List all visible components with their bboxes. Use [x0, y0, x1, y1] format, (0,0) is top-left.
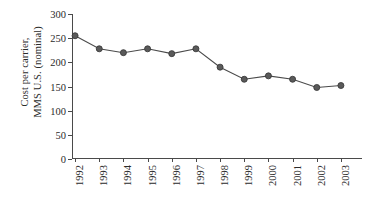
data-point-marker [120, 50, 126, 56]
data-series-layer [72, 14, 362, 159]
data-point-marker [290, 76, 296, 82]
data-point-marker [96, 46, 102, 52]
x-axis-tick-label: 1994 [122, 165, 133, 186]
line-chart: Cost per carrier, MMS U.S. (nominal) 050… [0, 0, 374, 201]
y-axis-tick [68, 159, 72, 160]
data-point-marker [217, 64, 223, 70]
y-axis-title-line-1: Cost per carrier, [19, 37, 32, 106]
data-point-marker [314, 84, 320, 90]
x-axis-tick-label: 1998 [219, 165, 230, 186]
y-axis-title: Cost per carrier, MMS U.S. (nominal) [15, 0, 49, 147]
y-axis-tick-label: 300 [50, 9, 66, 20]
x-axis-tick-label: 1996 [170, 165, 181, 186]
data-point-marker [241, 76, 247, 82]
y-axis-tick-label: 100 [50, 105, 66, 116]
x-axis-tick-label: 1999 [243, 165, 254, 186]
x-axis-tick-label: 2000 [267, 165, 278, 186]
x-axis-tick-label: 2003 [339, 165, 350, 186]
data-point-marker [169, 51, 175, 57]
data-point-marker [193, 46, 199, 52]
x-axis-tick-label: 2002 [315, 165, 326, 186]
data-point-marker [145, 46, 151, 52]
x-axis-tick-label: 1995 [146, 165, 157, 186]
data-point-marker [72, 33, 78, 39]
data-point-marker [265, 73, 271, 79]
y-axis-tick-label: 50 [56, 129, 67, 140]
x-axis-tick-label: 2001 [291, 165, 302, 186]
y-axis-tick-label: 200 [50, 57, 66, 68]
y-axis-tick-label: 0 [61, 154, 66, 165]
x-axis-tick-label: 1992 [74, 165, 85, 186]
data-point-marker [338, 83, 344, 89]
y-axis-tick-label: 150 [50, 81, 66, 92]
series-line [75, 36, 341, 88]
y-axis-title-line-2: MMS U.S. (nominal) [32, 26, 45, 118]
x-axis-tick-label: 1993 [98, 165, 109, 186]
plot-area: 050100150200250300 199219931994199519961… [72, 14, 362, 158]
x-axis-tick-label: 1997 [194, 165, 205, 186]
y-axis-tick-label: 250 [50, 33, 66, 44]
